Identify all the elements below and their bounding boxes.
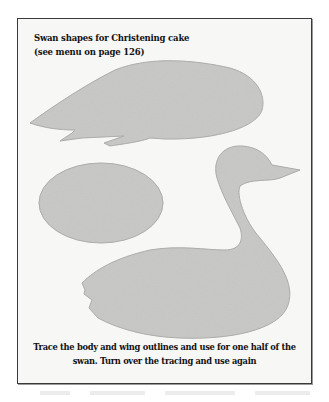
caption-line: Trace the body and wing outlines and use… [22,340,307,354]
wing-shape [30,61,263,146]
base-oval-shape [39,163,163,243]
template-instructions: Trace the body and wing outlines and use… [22,340,307,368]
reverse-page-bleed-through [40,389,310,397]
caption-line: swan. Turn over the tracing and use agai… [22,354,307,368]
